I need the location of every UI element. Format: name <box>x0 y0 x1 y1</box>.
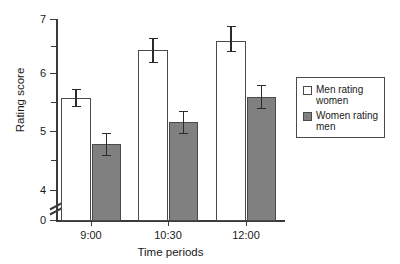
x-tick-label-12-00: 12:00 <box>216 229 276 241</box>
errorbar-cap-bottom-filled-9-00 <box>102 155 111 156</box>
errorbar-open-10-30 <box>152 38 153 62</box>
errorbar-cap-bottom-open-12-00 <box>227 51 236 52</box>
y-tick-minor-6_5 <box>51 46 56 47</box>
errorbar-filled-10-30 <box>183 111 184 133</box>
y-tick-4 <box>50 190 56 191</box>
y-tick-5 <box>50 131 56 132</box>
y-axis-title: Rating score <box>14 45 26 155</box>
x-tick-label-10-30: 10:30 <box>138 229 198 241</box>
errorbar-cap-bottom-filled-12-00 <box>257 108 266 109</box>
errorbar-cap-top-open-9-00 <box>72 89 81 90</box>
x-tick-12-00 <box>246 220 247 226</box>
errorbar-cap-top-filled-12-00 <box>257 85 266 86</box>
bar-chart-figure: 7 6 5 4 0 Rating score 9:00 10:30 <box>0 0 400 264</box>
errorbar-cap-bottom-open-9-00 <box>72 106 81 107</box>
bar-filled-12-00 <box>247 97 276 221</box>
y-tick-minor-4_5 <box>51 160 56 161</box>
errorbar-filled-12-00 <box>261 85 262 108</box>
legend-item-women-rating-men: Women rating men <box>303 110 379 132</box>
y-tick-0 <box>50 220 56 221</box>
errorbar-cap-top-open-12-00 <box>227 26 236 27</box>
y-axis-line <box>56 19 58 221</box>
bar-filled-10-30 <box>169 122 198 221</box>
y-tick-6 <box>50 73 56 74</box>
bar-open-10-30 <box>138 50 168 221</box>
y-tick-label-7: 7 <box>0 14 46 25</box>
errorbar-cap-top-open-10-30 <box>149 38 158 39</box>
x-tick-label-9-00: 9:00 <box>61 229 121 241</box>
errorbar-filled-9-00 <box>106 133 107 155</box>
errorbar-cap-top-filled-10-30 <box>179 111 188 112</box>
legend-label-women-rating-men: Women rating men <box>316 110 379 132</box>
x-tick-10-30 <box>168 220 169 226</box>
x-axis-title: Time periods <box>56 246 285 258</box>
legend-label-men-rating-women: Men rating women <box>316 84 379 106</box>
errorbar-cap-top-filled-9-00 <box>102 133 111 134</box>
y-tick-7 <box>50 19 56 20</box>
legend-item-men-rating-women: Men rating women <box>303 84 379 106</box>
bar-open-12-00 <box>216 41 246 221</box>
open-square-icon <box>303 86 312 95</box>
errorbar-cap-bottom-open-10-30 <box>149 62 158 63</box>
filled-square-icon <box>303 112 312 121</box>
chart-legend: Men rating women Women rating men <box>296 77 385 138</box>
x-tick-9-00 <box>91 220 92 226</box>
bar-open-9-00 <box>61 98 91 221</box>
y-tick-label-0: 0 <box>0 215 46 226</box>
errorbar-open-12-00 <box>230 26 231 51</box>
errorbar-open-9-00 <box>75 89 76 106</box>
y-tick-minor-5_5 <box>51 102 56 103</box>
errorbar-cap-bottom-filled-10-30 <box>179 133 188 134</box>
y-tick-label-4: 4 <box>0 185 46 196</box>
